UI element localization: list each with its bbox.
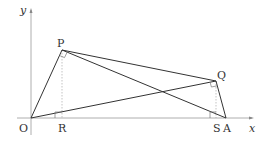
y-axis-arrow-icon [30,8,33,13]
point-label-O: O [19,122,28,135]
x-axis-arrow-icon [249,117,254,120]
segment-PQ [62,50,216,81]
segment-OQ [31,81,216,118]
point-label-A: A [222,122,232,135]
segment-OP [31,50,62,118]
segment-QA [216,81,226,118]
point-label-Q: Q [217,69,226,82]
point-label-S: S [213,122,221,135]
segments [31,50,226,118]
x-axis-label: x [249,122,256,135]
y-axis-label: y [19,4,27,17]
point-label-P: P [57,37,65,50]
point-label-R: R [58,122,67,135]
geometry-diagram: y x O P Q R S A [0,0,271,141]
